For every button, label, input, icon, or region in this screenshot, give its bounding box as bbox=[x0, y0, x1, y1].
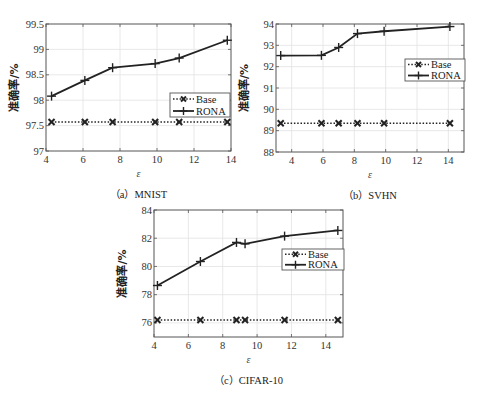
chart-panel-c: 4681012147678808284ε准确率/%BaseRONA（c）CIFA… bbox=[115, 205, 344, 387]
y-tick-label: 98 bbox=[34, 95, 45, 106]
y-axis-label: 准确率/% bbox=[115, 249, 129, 297]
y-tick-label: 97 bbox=[34, 146, 45, 157]
y-tick-label: 82 bbox=[142, 233, 153, 244]
legend-label-rona: RONA bbox=[196, 106, 226, 117]
legend: BaseRONA bbox=[282, 249, 344, 271]
x-tick-label: 6 bbox=[80, 154, 85, 165]
legend-label-rona: RONA bbox=[308, 259, 338, 270]
y-tick-label: 76 bbox=[142, 317, 153, 328]
x-tick-label: 4 bbox=[43, 154, 49, 165]
series-base bbox=[278, 120, 453, 126]
x-tick-label: 10 bbox=[152, 154, 163, 165]
series-rona bbox=[47, 36, 232, 101]
series-base bbox=[154, 317, 340, 323]
x-tick-label: 14 bbox=[321, 340, 332, 351]
chart-panel-b: 46810121488899091929394ε准确率/%BaseRONA（b）… bbox=[237, 19, 465, 202]
legend-label-base: Base bbox=[196, 94, 217, 105]
x-tick-label: 12 bbox=[189, 154, 200, 165]
y-tick-label: 93 bbox=[264, 40, 275, 51]
grid bbox=[276, 24, 464, 152]
y-tick-label: 89 bbox=[264, 125, 275, 136]
legend: BaseRONA bbox=[170, 93, 230, 117]
y-tick-label: 98.5 bbox=[26, 69, 44, 80]
y-axis-label: 准确率/% bbox=[237, 64, 251, 112]
y-tick-label: 99.5 bbox=[26, 19, 44, 30]
x-tick-label: 8 bbox=[117, 154, 122, 165]
x-axis-label: ε bbox=[137, 168, 141, 179]
legend-label-base: Base bbox=[431, 59, 452, 70]
x-tick-label: 4 bbox=[151, 340, 157, 351]
x-tick-label: 10 bbox=[380, 155, 391, 166]
x-tick-label: 8 bbox=[220, 340, 225, 351]
y-tick-label: 80 bbox=[142, 261, 153, 272]
y-tick-label: 91 bbox=[264, 83, 275, 94]
y-tick-label: 92 bbox=[264, 61, 275, 72]
x-tick-label: 14 bbox=[443, 155, 454, 166]
y-tick-label: 84 bbox=[142, 205, 153, 216]
figure: 4681012149797.59898.59999.5ε准确率/%BaseRON… bbox=[0, 0, 482, 398]
x-tick-label: 8 bbox=[352, 155, 357, 166]
legend-label-base: Base bbox=[308, 249, 329, 260]
x-tick-label: 14 bbox=[226, 154, 237, 165]
caption-b: （b）SVHN bbox=[343, 190, 397, 201]
plot-frame bbox=[46, 24, 231, 151]
grid bbox=[46, 24, 231, 151]
caption-a: （a）MNIST bbox=[110, 189, 168, 200]
x-tick-label: 12 bbox=[412, 155, 423, 166]
x-axis-label: ε bbox=[247, 354, 251, 365]
y-tick-label: 99 bbox=[34, 44, 45, 55]
x-tick-label: 12 bbox=[286, 340, 297, 351]
y-axis-label: 准确率/% bbox=[7, 63, 21, 111]
y-axis-ticks: 9797.59898.59999.5 bbox=[26, 19, 231, 157]
x-tick-label: 6 bbox=[186, 340, 191, 351]
x-tick-label: 6 bbox=[320, 155, 325, 166]
y-tick-label: 97.5 bbox=[26, 120, 44, 131]
x-tick-label: 4 bbox=[289, 155, 295, 166]
y-tick-label: 94 bbox=[264, 19, 275, 30]
legend: BaseRONA bbox=[405, 59, 465, 81]
chart-panel-a: 4681012149797.59898.59999.5ε准确率/%BaseRON… bbox=[7, 19, 237, 201]
x-axis-label: ε bbox=[368, 169, 372, 180]
x-axis-ticks: 468101214 bbox=[151, 210, 331, 351]
series-rona bbox=[276, 22, 454, 60]
y-tick-label: 78 bbox=[142, 289, 153, 300]
y-tick-label: 88 bbox=[264, 147, 275, 158]
y-tick-label: 90 bbox=[264, 104, 275, 115]
caption-c: （c）CIFAR-10 bbox=[214, 375, 283, 386]
series-base bbox=[49, 119, 231, 125]
legend-label-rona: RONA bbox=[431, 70, 461, 81]
x-tick-label: 10 bbox=[252, 340, 263, 351]
